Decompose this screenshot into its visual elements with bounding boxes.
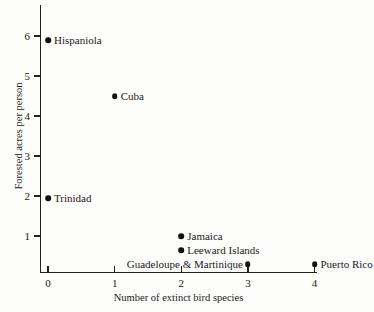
data-point[interactable] bbox=[178, 247, 184, 253]
data-point[interactable] bbox=[45, 195, 51, 201]
data-point-label: Jamaica bbox=[187, 231, 222, 242]
data-point[interactable] bbox=[312, 261, 318, 267]
data-point[interactable] bbox=[178, 233, 184, 239]
data-point-label: Leeward Islands bbox=[187, 245, 259, 256]
data-point[interactable] bbox=[245, 261, 251, 267]
x-axis-title: Number of extinct bird species bbox=[40, 292, 317, 304]
y-axis-line bbox=[40, 5, 41, 273]
data-point-label: Hispaniola bbox=[54, 35, 102, 46]
y-tick-mark bbox=[34, 235, 40, 236]
data-point[interactable] bbox=[45, 37, 51, 43]
y-tick-label: 6 bbox=[8, 31, 30, 42]
x-tick-mark bbox=[47, 266, 48, 272]
y-tick-mark bbox=[34, 115, 40, 116]
x-tick-mark bbox=[247, 266, 248, 272]
x-tick-label: 0 bbox=[36, 278, 60, 289]
x-tick-mark bbox=[114, 266, 115, 272]
scatter-plot: 123456 01234 HispaniolaCubaTrinidadJamai… bbox=[0, 0, 374, 312]
y-tick-mark bbox=[34, 35, 40, 36]
y-tick-mark bbox=[34, 155, 40, 156]
x-axis-line bbox=[40, 272, 317, 273]
x-tick-label: 3 bbox=[236, 278, 260, 289]
data-point-label: Guadeloupe & Martinique bbox=[127, 259, 243, 270]
y-tick-label: 1 bbox=[8, 231, 30, 242]
y-axis-title: Forested acres per person bbox=[13, 56, 25, 216]
y-tick-mark bbox=[34, 195, 40, 196]
x-tick-label: 4 bbox=[303, 278, 327, 289]
y-tick-mark bbox=[34, 75, 40, 76]
data-point[interactable] bbox=[112, 93, 118, 99]
x-tick-label: 2 bbox=[169, 278, 193, 289]
data-point-label: Trinidad bbox=[54, 193, 92, 204]
data-point-label: Cuba bbox=[121, 91, 144, 102]
x-tick-mark bbox=[314, 266, 315, 272]
x-tick-label: 1 bbox=[103, 278, 127, 289]
data-point-label: Puerto Rico bbox=[321, 259, 373, 270]
